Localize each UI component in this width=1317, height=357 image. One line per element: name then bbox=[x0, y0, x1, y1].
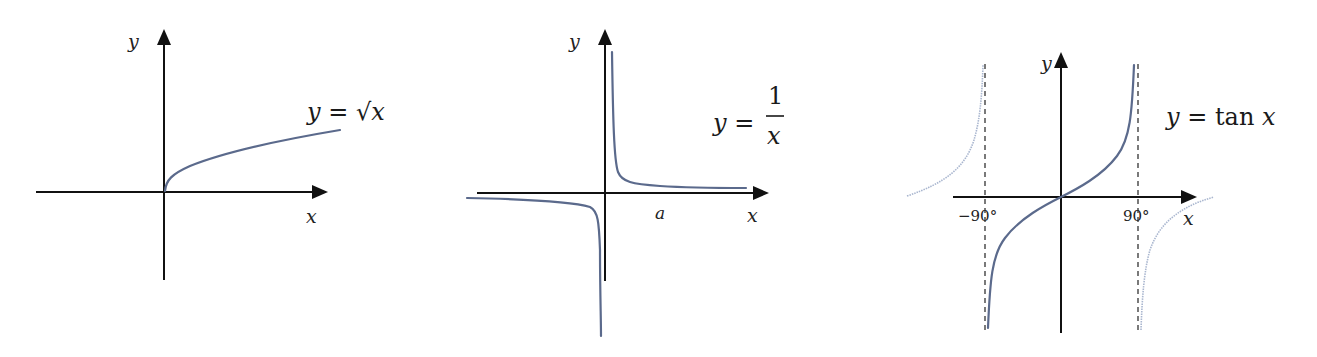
y-axis-label: y bbox=[127, 30, 139, 52]
x-axis-label: x bbox=[306, 205, 317, 227]
y-axis-arrow-icon bbox=[598, 29, 612, 45]
y-axis-label: y bbox=[1040, 52, 1052, 74]
equation-equals: = bbox=[727, 109, 755, 137]
equation-arg: x bbox=[1262, 103, 1276, 131]
x-axis-arrow-icon bbox=[753, 186, 769, 200]
equation-rhs: √x bbox=[356, 98, 385, 126]
equation-lhs: y bbox=[712, 109, 727, 137]
function-graphs-figure: y x y = √x y x a y = 1 x bbox=[0, 0, 1317, 357]
equation-label: y = bbox=[712, 109, 754, 137]
y-axis-arrow-icon bbox=[1054, 52, 1068, 68]
reciprocal-curve-negative bbox=[467, 198, 601, 336]
fraction-denominator: x bbox=[767, 122, 781, 150]
tan-curve-right-branch bbox=[1141, 197, 1214, 330]
equation-lhs: y bbox=[1165, 103, 1180, 131]
x-axis-arrow-icon bbox=[1181, 190, 1197, 204]
equation-label: y = tan x bbox=[1165, 103, 1276, 131]
equation-fn: tan bbox=[1215, 103, 1254, 131]
tan-curve-left-branch bbox=[907, 65, 983, 196]
fraction-numerator: 1 bbox=[768, 82, 783, 110]
equation-equals: = bbox=[1180, 103, 1215, 131]
tick-label-neg-90: −90° bbox=[958, 207, 997, 225]
x-axis-label: x bbox=[747, 204, 758, 226]
panel-tan-graph: y x −90° 90° y = tan x bbox=[907, 52, 1276, 333]
sqrt-curve bbox=[165, 130, 340, 191]
tick-label-a: a bbox=[655, 203, 665, 223]
tick-label-pos-90: 90° bbox=[1123, 207, 1150, 225]
panel-reciprocal-graph: y x a y = 1 x bbox=[467, 29, 784, 336]
y-axis-arrow-icon bbox=[157, 29, 171, 45]
panel-sqrt-graph: y x y = √x bbox=[36, 29, 385, 280]
x-axis-label: x bbox=[1183, 207, 1194, 229]
x-axis-arrow-icon bbox=[312, 185, 328, 199]
equation-label: y = √x bbox=[306, 98, 385, 126]
y-axis-label: y bbox=[568, 30, 580, 52]
equation-lhs: y bbox=[306, 98, 321, 126]
equation-equals: = bbox=[321, 98, 356, 126]
